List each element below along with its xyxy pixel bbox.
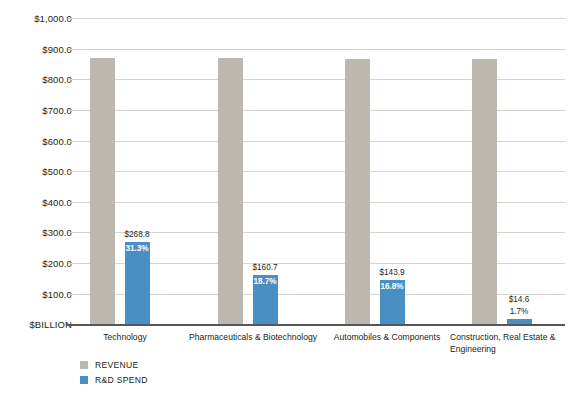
y-tick-dash-1000 [68,18,78,19]
y-tick-dash-600 [68,141,78,142]
x-axis-label-automobiles: Automobiles & Components [312,332,462,344]
y-tick-dash-500 [68,171,78,172]
y-axis-label-700: $700.0 [0,105,72,116]
bar-percent-label-technology: 31.3% [102,244,172,253]
legend-item-rnd-spend[interactable]: R&D SPEND [80,372,148,387]
legend-item-revenue[interactable]: REVENUE [80,357,148,372]
legend-swatch-revenue [80,361,88,369]
bar-value-label-technology: $268.8 [102,230,172,239]
y-tick-dash-100 [68,294,78,295]
y-axis-label-200: $200.0 [0,258,72,269]
plot-area: $268.8 31.3% $160.7 18.7% $143.9 16.8% $… [78,18,565,324]
legend-label-rnd-spend: R&D SPEND [95,375,148,385]
y-axis-label-1000: $1,000.0 [0,13,72,24]
y-tick-dash-900 [68,49,78,50]
bar-percent-label-automobiles: 16.8% [357,282,427,291]
y-tick-dash-400 [68,202,78,203]
y-tick-dash-700 [68,110,78,111]
x-axis-baseline [78,324,565,326]
chart-legend: REVENUE R&D SPEND [80,357,148,387]
bar-percent-label-construction: 1.7% [484,307,554,316]
legend-swatch-rnd-spend [80,376,88,384]
y-axis-label-400: $400.0 [0,197,72,208]
y-tick-dash-200 [68,263,78,264]
y-tick-dash-800 [68,79,78,80]
y-axis-label-500: $500.0 [0,166,72,177]
x-axis-baseline-tick [66,324,78,326]
bar-value-label-construction: $14.6 [484,295,554,304]
bar-rnd-technology [125,242,150,324]
legend-label-revenue: REVENUE [95,360,139,370]
rnd-spend-bar-chart: $1,000.0 $900.0 $800.0 $700.0 $600.0 $50… [0,0,588,394]
bar-value-label-pharmaceuticals: $160.7 [230,263,300,272]
x-axis-label-technology: Technology [70,332,180,344]
y-axis-label-100: $100.0 [0,289,72,300]
bar-value-label-automobiles: $143.9 [357,268,427,277]
cropped-title-remnant [0,0,588,8]
y-axis-label-900: $900.0 [0,44,72,55]
gridline-1000 [78,18,565,19]
x-axis-label-construction-line2: Engineering [450,344,496,354]
x-axis-label-construction-line1: Construction, Real Estate & [450,332,556,342]
y-axis-label-300: $300.0 [0,227,72,238]
bar-percent-label-pharmaceuticals: 18.7% [230,277,300,286]
y-axis-label-600: $600.0 [0,136,72,147]
x-axis-label-construction: Construction, Real Estate & Engineering [450,332,578,355]
bar-revenue-technology [90,58,115,324]
y-axis-label-800: $800.0 [0,74,72,85]
y-tick-dash-300 [68,232,78,233]
y-axis-label-billion: $BILLION [0,319,72,330]
bar-revenue-construction [472,59,497,324]
gridline-900 [78,49,565,50]
